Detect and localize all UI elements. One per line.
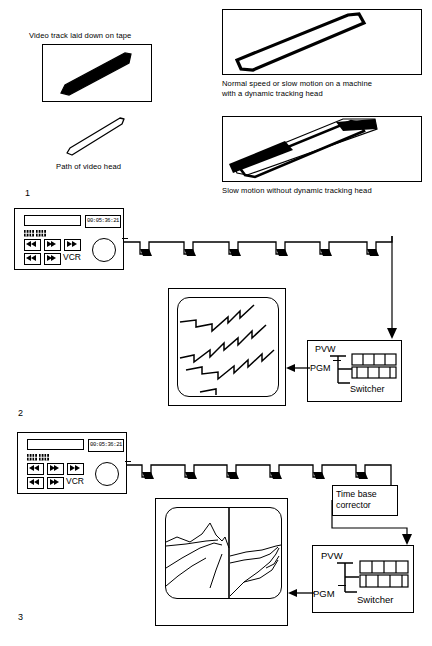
vcr-timecode-display: 00:05:36:21 (85, 215, 121, 228)
vcr-transport-record-button-3[interactable] (27, 477, 44, 489)
pgm-dash-section3 (338, 585, 346, 590)
play-icon (48, 464, 61, 472)
video-head-track-marks-3 (142, 472, 368, 479)
slow-motion-track-box (222, 116, 422, 182)
vcr-transport-pause-button-3[interactable] (47, 477, 64, 489)
vcr-timecode-value: 00:05:36:21 (86, 216, 120, 225)
rewind-icon (25, 240, 38, 248)
vcr-timecode-value-3: 00:05:36:21 (89, 440, 123, 449)
switcher-pvw-label: PVW (315, 344, 336, 354)
record-icon (25, 254, 38, 262)
video-track-box (42, 44, 152, 102)
vcr-unit-section2[interactable]: 00:05:36:21 (14, 208, 124, 270)
fast-forward-icon (68, 464, 81, 472)
switcher-name-label-3: Switcher (357, 594, 393, 605)
section-number-1: 1 (25, 188, 30, 198)
vcr-transport-play-button-3[interactable] (47, 463, 64, 475)
pgm-output-arrow-section2 (286, 362, 310, 374)
caption-video-track-on-tape: Video track laid down on tape (29, 31, 179, 41)
fast-forward-icon (65, 240, 78, 248)
switcher-section3[interactable]: PVW Switcher (312, 545, 414, 613)
vcr-to-tape-connector-section3 (125, 461, 131, 468)
vcr-counter-digits (24, 230, 48, 237)
vcr-transport-fast-forward-button-3[interactable] (67, 463, 84, 475)
play-icon (45, 240, 58, 248)
pgm-dash-section2 (333, 360, 341, 365)
normal-speed-track-box (222, 9, 422, 75)
tape-to-switcher-arrow-section2 (382, 236, 402, 340)
record-icon (28, 478, 41, 486)
video-head-path-bar (60, 110, 132, 158)
switcher-bus-buttons[interactable] (352, 354, 398, 380)
vcr-unit-section3[interactable]: 00:05:36:21 (17, 432, 127, 494)
pgm-output-arrow-section3 (288, 587, 314, 599)
tbc-label-line1: Time base (336, 489, 377, 500)
caption-slow-motion: Slow motion without dynamic tracking hea… (222, 186, 432, 196)
section-number-2: 2 (18, 408, 23, 418)
landscape-image-with-shift (166, 508, 281, 598)
switcher-bus-buttons-3[interactable] (360, 561, 410, 589)
vcr-transport-rewind-button-3[interactable] (27, 463, 44, 475)
rewind-icon (28, 464, 41, 472)
tbc-to-switcher-arrow (325, 500, 420, 546)
video-track-diagonal-bar (43, 45, 151, 101)
figure-page: Video track laid down on tape Path of vi… (0, 0, 432, 646)
vcr-timecode-display-3: 00:05:36:21 (88, 439, 124, 452)
section-number-3: 3 (18, 612, 23, 622)
no-tracking-head-track (223, 117, 421, 181)
dynamic-tracking-head-track (223, 10, 421, 74)
switcher-name-label: Switcher (350, 384, 385, 394)
vcr-transport-rewind-button[interactable] (24, 239, 41, 251)
tape-path-section2 (124, 232, 419, 272)
jog-shuttle-dial-3[interactable] (95, 462, 119, 486)
monitor-lower-screen (165, 507, 282, 599)
video-head-track-marks (140, 249, 379, 256)
vcr-device-label: VCR (63, 252, 81, 262)
monitor-upper (168, 288, 286, 406)
monitor-upper-screen (177, 297, 279, 397)
vcr-transport-pause-button[interactable] (44, 253, 61, 265)
switcher-pgm-label-section2: PGM (310, 363, 331, 373)
jog-shuttle-dial[interactable] (92, 238, 116, 262)
vcr-counter-digits-3 (27, 454, 51, 461)
monitor-lower (155, 498, 288, 626)
switcher-pgm-label-section3: PGM (313, 588, 335, 599)
vcr-to-tape-connector-section2 (122, 238, 128, 245)
vcr-device-label-3: VCR (66, 476, 84, 486)
pause-icon (45, 254, 58, 262)
vcr-display-bar (24, 215, 81, 226)
vcr-transport-play-button[interactable] (44, 239, 61, 251)
vcr-transport-record-button[interactable] (24, 253, 41, 265)
caption-path-of-video-head: Path of video head (56, 162, 176, 172)
pause-icon (48, 478, 61, 486)
switcher-pvw-label-3: PVW (321, 550, 343, 561)
caption-normal-speed: Normal speed or slow motion on a machine… (222, 79, 432, 99)
torn-zigzag-video-lines (178, 298, 278, 396)
vcr-display-bar-3 (27, 439, 84, 450)
vcr-transport-fast-forward-button[interactable] (64, 239, 81, 251)
